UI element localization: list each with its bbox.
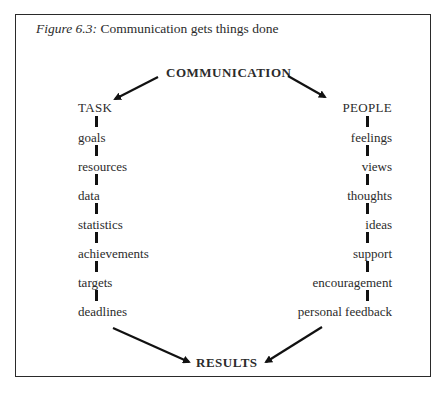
connector-dash <box>95 145 98 156</box>
connector-dash <box>366 174 369 185</box>
connector-dash <box>95 203 98 214</box>
figure-caption: Communication gets things done <box>100 21 278 36</box>
people-item: support <box>353 247 392 260</box>
node-communication: COMMUNICATION <box>166 66 291 79</box>
connector-dash <box>366 116 369 127</box>
task-item: goals <box>78 131 105 144</box>
task-item: achievements <box>78 247 149 260</box>
node-task: TASK <box>78 101 112 114</box>
connector-dash <box>366 203 369 214</box>
node-people: PEOPLE <box>343 101 392 114</box>
connector-dash <box>366 290 369 301</box>
people-item: views <box>362 160 392 173</box>
people-item: encouragement <box>313 276 392 289</box>
task-item: resources <box>78 160 127 173</box>
connector-dash <box>366 232 369 243</box>
connector-dash <box>95 232 98 243</box>
connector-dash <box>95 261 98 272</box>
connector-dash <box>366 261 369 272</box>
figure-label: Figure 6.3: <box>36 21 97 36</box>
people-item: personal feedback <box>298 305 392 318</box>
task-item: deadlines <box>78 305 127 318</box>
people-item: ideas <box>365 218 392 231</box>
connector-dash <box>95 290 98 301</box>
task-item: data <box>78 189 100 202</box>
task-item: statistics <box>78 218 123 231</box>
task-item: targets <box>78 276 112 289</box>
connector-dash <box>366 145 369 156</box>
node-results: RESULTS <box>196 356 258 369</box>
connector-dash <box>95 116 98 127</box>
connector-dash <box>95 174 98 185</box>
figure-title: Figure 6.3: Communication gets things do… <box>36 22 279 36</box>
people-item: feelings <box>351 131 392 144</box>
people-item: thoughts <box>347 189 392 202</box>
